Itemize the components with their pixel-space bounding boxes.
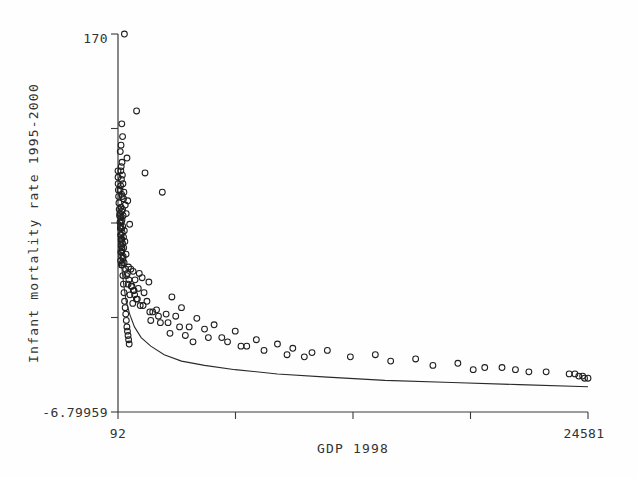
data-point (470, 367, 476, 373)
data-point (156, 313, 162, 319)
data-point (118, 142, 124, 148)
data-point (430, 362, 436, 368)
data-point (482, 365, 488, 371)
data-point (120, 134, 126, 140)
data-point (119, 121, 125, 127)
data-point (261, 348, 267, 354)
data-point (169, 294, 175, 300)
data-points-group (115, 31, 591, 381)
x-axis-tick-label-right: 24581 (563, 426, 604, 441)
data-point (173, 313, 179, 319)
data-point (141, 290, 147, 296)
data-point (146, 279, 152, 285)
data-point (134, 108, 140, 114)
data-point (159, 189, 165, 195)
y-axis-tick-label-top: 170 (83, 31, 108, 46)
data-point (290, 345, 296, 351)
scatter-plot-figure: 170 -6.79959 92 24581 GDP 1998 Infant mo… (0, 0, 638, 478)
data-point (148, 318, 154, 324)
fitted-curve (119, 209, 588, 386)
data-point (127, 221, 133, 227)
data-point (163, 311, 169, 317)
data-point (165, 320, 171, 326)
data-point (543, 369, 549, 375)
data-point (388, 358, 394, 364)
data-point (167, 330, 173, 336)
data-point (157, 320, 163, 326)
data-point (372, 352, 378, 358)
data-point (232, 328, 238, 334)
data-point (121, 290, 127, 296)
data-point (211, 322, 217, 328)
data-point (126, 341, 132, 347)
data-point (275, 341, 281, 347)
data-point (225, 339, 231, 345)
data-point (499, 365, 505, 371)
x-axis-tick-label-left: 92 (110, 426, 126, 441)
data-point (139, 275, 145, 281)
data-point (123, 311, 129, 317)
data-point (177, 324, 183, 330)
x-axis-title: GDP 1998 (317, 441, 389, 456)
data-point (186, 324, 192, 330)
data-point (301, 354, 307, 360)
y-axis-title: Infant mortality rate 1995-2000 (26, 83, 41, 363)
data-point (566, 371, 572, 377)
data-point (513, 367, 519, 373)
data-point (526, 369, 532, 375)
data-point (190, 339, 196, 345)
data-point (179, 305, 185, 311)
data-point (253, 337, 259, 343)
data-point (413, 356, 419, 362)
data-point (121, 31, 127, 37)
data-point (219, 335, 225, 341)
data-point (238, 343, 244, 349)
data-point (182, 333, 188, 339)
y-axis-tick-label-bottom: -6.79959 (42, 405, 108, 420)
data-point (142, 170, 148, 176)
data-point (244, 343, 250, 349)
data-point (124, 155, 130, 161)
data-point (309, 350, 315, 356)
x-axis-ticks (118, 412, 588, 419)
chart-canvas: 170 -6.79959 92 24581 GDP 1998 Infant mo… (0, 0, 638, 478)
data-point (123, 318, 129, 324)
data-point (194, 315, 200, 321)
data-point (455, 360, 461, 366)
data-point (324, 348, 330, 354)
data-point (132, 277, 138, 283)
data-point (205, 335, 211, 341)
data-point (284, 352, 290, 358)
data-point (347, 354, 353, 360)
data-point (202, 326, 208, 332)
